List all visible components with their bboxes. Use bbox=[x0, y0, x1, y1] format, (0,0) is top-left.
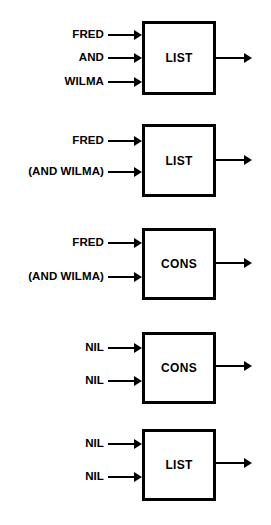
input-label: NIL bbox=[0, 342, 104, 354]
function-block-5: LISTNILNIL bbox=[0, 0, 271, 525]
operator-box[interactable] bbox=[142, 332, 216, 404]
input-label: FRED bbox=[0, 29, 104, 41]
function-block-2: LISTFRED(AND WILMA) bbox=[0, 0, 271, 525]
operator-label: LIST bbox=[142, 21, 216, 95]
input-arrow-head-icon bbox=[134, 343, 142, 353]
input-label: (AND WILMA) bbox=[0, 271, 104, 283]
input-label: FRED bbox=[0, 237, 104, 249]
operator-box[interactable] bbox=[142, 228, 216, 300]
input-label: FRED bbox=[0, 135, 104, 147]
input-label: NIL bbox=[0, 375, 104, 387]
input-arrow-line bbox=[108, 140, 136, 142]
input-arrow-line bbox=[108, 476, 136, 478]
operator-label: LIST bbox=[142, 429, 216, 501]
input-label: NIL bbox=[0, 471, 104, 483]
function-block-4: CONSNILNIL bbox=[0, 0, 271, 525]
input-arrow-head-icon bbox=[134, 376, 142, 386]
input-arrow-head-icon bbox=[134, 238, 142, 248]
input-arrow-head-icon bbox=[134, 167, 142, 177]
input-label: AND bbox=[0, 52, 104, 64]
output-arrow-head-icon bbox=[244, 258, 252, 268]
function-block-3: CONSFRED(AND WILMA) bbox=[0, 0, 271, 525]
output-arrow-head-icon bbox=[244, 53, 252, 63]
operator-label: CONS bbox=[142, 228, 216, 300]
input-label: NIL bbox=[0, 438, 104, 450]
input-arrow-head-icon bbox=[134, 136, 142, 146]
operator-label: LIST bbox=[142, 124, 216, 197]
operator-label: CONS bbox=[142, 332, 216, 404]
operator-box[interactable] bbox=[142, 21, 216, 95]
diagram-canvas: LISTFREDANDWILMALISTFRED(AND WILMA)CONSF… bbox=[0, 0, 271, 525]
function-block-1: LISTFREDANDWILMA bbox=[0, 0, 271, 525]
input-arrow-line bbox=[108, 380, 136, 382]
output-arrow-head-icon bbox=[244, 361, 252, 371]
input-arrow-line bbox=[108, 347, 136, 349]
input-arrow-line bbox=[108, 242, 136, 244]
output-arrow-line bbox=[216, 365, 246, 367]
input-arrow-line bbox=[108, 34, 136, 36]
input-arrow-head-icon bbox=[134, 77, 142, 87]
output-arrow-head-icon bbox=[244, 155, 252, 165]
operator-box[interactable] bbox=[142, 124, 216, 197]
input-arrow-line bbox=[108, 443, 136, 445]
operator-box[interactable] bbox=[142, 429, 216, 501]
input-arrow-head-icon bbox=[134, 272, 142, 282]
output-arrow-line bbox=[216, 262, 246, 264]
input-label: (AND WILMA) bbox=[0, 166, 104, 178]
input-arrow-head-icon bbox=[134, 30, 142, 40]
output-arrow-line bbox=[216, 159, 246, 161]
input-arrow-line bbox=[108, 57, 136, 59]
output-arrow-line bbox=[216, 462, 246, 464]
input-arrow-head-icon bbox=[134, 439, 142, 449]
input-arrow-line bbox=[108, 81, 136, 83]
input-label: WILMA bbox=[0, 76, 104, 88]
output-arrow-head-icon bbox=[244, 458, 252, 468]
output-arrow-line bbox=[216, 57, 246, 59]
input-arrow-head-icon bbox=[134, 53, 142, 63]
input-arrow-line bbox=[108, 276, 136, 278]
input-arrow-head-icon bbox=[134, 472, 142, 482]
input-arrow-line bbox=[108, 171, 136, 173]
